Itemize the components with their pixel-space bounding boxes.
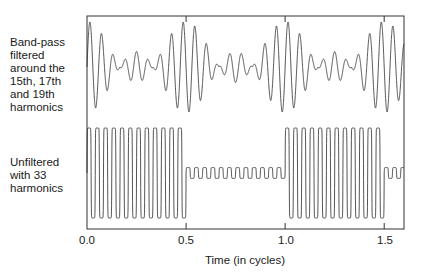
band-pass-waveform (87, 22, 404, 112)
x-tick-label: 1.5 (377, 234, 393, 246)
x-tick-label: 0.5 (178, 234, 194, 246)
unfiltered-waveform (87, 128, 404, 218)
x-tick-label: 1.0 (278, 234, 294, 246)
plot-area (0, 0, 421, 273)
plot-frame (87, 16, 404, 229)
x-tick-label: 0.0 (79, 234, 95, 246)
x-axis-label: Time (in cycles) (205, 254, 285, 266)
